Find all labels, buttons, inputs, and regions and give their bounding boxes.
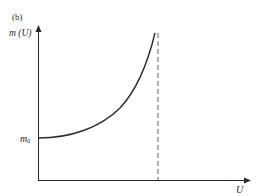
figure-panel-b: (b) m (U) m0 U xyxy=(0,0,260,196)
curve-m-of-U xyxy=(39,33,156,138)
y-axis-label: m (U) xyxy=(9,29,31,39)
panel-label: (b) xyxy=(12,13,23,22)
y-intercept-label: m0 xyxy=(20,134,30,144)
x-axis-label: U xyxy=(236,185,243,195)
chart-plot xyxy=(0,0,260,196)
y-intercept-label-subscript: 0 xyxy=(27,138,30,144)
